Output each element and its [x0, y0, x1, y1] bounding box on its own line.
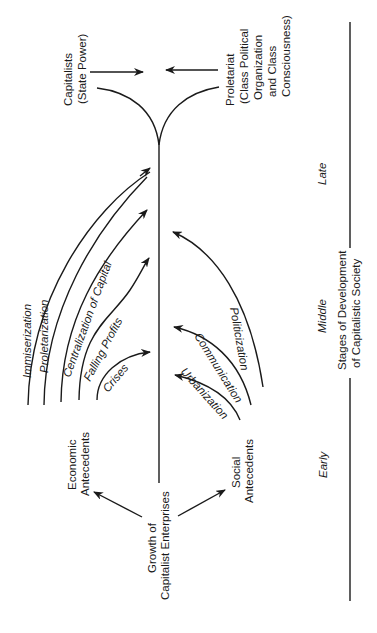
centralization-arrow	[61, 210, 147, 402]
svg-text:(Class Political: (Class Political	[238, 29, 250, 104]
stage-middle-label: Middle	[316, 299, 328, 333]
svg-text:Organization: Organization	[252, 35, 264, 100]
stage-early-label: Early	[317, 451, 329, 478]
economic-antecedents-label: Economic Antecedents	[66, 432, 91, 496]
fork-proletariat-branch	[159, 87, 219, 145]
diagram-svg: Capitalists (State Power) Proletariat (C…	[0, 0, 377, 633]
svg-text:Social: Social	[230, 457, 242, 488]
stage-late-label: Late	[316, 163, 328, 185]
svg-text:(State Power): (State Power)	[76, 34, 88, 104]
svg-text:Growth of: Growth of	[146, 522, 158, 573]
social-antecedents-arrow	[178, 490, 225, 516]
proletariat-label: Proletariat (Class Political Organizatio…	[224, 15, 292, 106]
politicization-label: Politicization	[228, 306, 251, 371]
svg-text:Capitalists: Capitalists	[62, 53, 74, 106]
proletarization-label: Proletarization	[38, 299, 50, 373]
svg-text:Economic: Economic	[66, 439, 78, 490]
svg-text:of Capitalistic Society: of Capitalistic Society	[350, 258, 362, 368]
diagram-canvas: Capitalists (State Power) Proletariat (C…	[0, 0, 377, 633]
growth-root-label: Growth of Capitalist Enterprises	[146, 491, 171, 600]
svg-text:Consciousness): Consciousness)	[280, 15, 292, 97]
social-antecedents-label: Social Antecedents	[230, 439, 255, 503]
economic-antecedents-arrow	[94, 492, 142, 517]
svg-text:Antecedents: Antecedents	[243, 439, 255, 503]
capitalists-label: Capitalists (State Power)	[62, 34, 88, 106]
fork-capitalists-branch	[97, 88, 159, 145]
svg-text:Antecedents: Antecedents	[79, 432, 91, 496]
crises-label: Crises	[100, 361, 130, 394]
immiserization-label: Immiserization	[21, 304, 33, 378]
svg-text:Stages of Development: Stages of Development	[336, 250, 348, 370]
stages-axis-label: Stages of Development of Capitalistic So…	[336, 250, 362, 370]
svg-text:Proletariat: Proletariat	[224, 53, 236, 106]
svg-text:and Class: and Class	[266, 46, 278, 97]
svg-text:Capitalist Enterprises: Capitalist Enterprises	[159, 491, 171, 600]
